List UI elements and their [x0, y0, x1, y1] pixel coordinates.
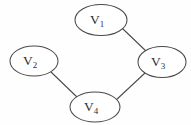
- edge-v3-v4: [115, 73, 145, 101]
- node-v3: V3: [138, 47, 186, 78]
- edge-v2-v4: [51, 72, 78, 98]
- node-v2-label-sub: 2: [33, 60, 38, 70]
- graph-diagram: V1 V2 V3 V4: [0, 0, 191, 125]
- edge-v1-v3: [123, 29, 147, 52]
- node-v4-label-base: V: [84, 99, 94, 114]
- node-v3-label-base: V: [151, 54, 161, 69]
- node-v1-label-base: V: [90, 12, 100, 27]
- edge-group: [51, 29, 147, 101]
- node-v4-label-sub: 4: [94, 106, 99, 116]
- node-v1-label-sub: 1: [100, 19, 105, 29]
- node-v2: V2: [10, 46, 58, 76]
- graph-canvas: V1 V2 V3 V4: [0, 0, 191, 125]
- node-v4: V4: [70, 92, 120, 122]
- node-v1: V1: [75, 5, 127, 36]
- node-v2-label-base: V: [23, 53, 33, 68]
- node-v3-label-sub: 3: [161, 61, 166, 71]
